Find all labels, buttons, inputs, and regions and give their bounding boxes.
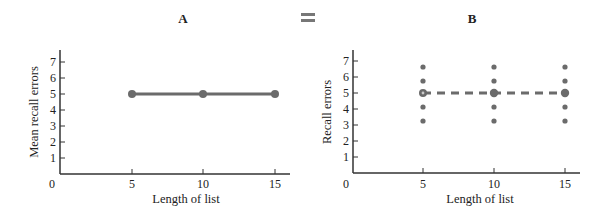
svg-text:7: 7 — [50, 55, 56, 69]
svg-text:2: 2 — [343, 134, 349, 148]
x-axis-label: Length of list — [152, 192, 220, 206]
svg-text:5: 5 — [420, 177, 426, 191]
data-point — [271, 90, 279, 98]
svg-text:15: 15 — [559, 177, 571, 191]
svg-text:1: 1 — [343, 150, 349, 164]
svg-text:0: 0 — [343, 177, 349, 191]
svg-text:10: 10 — [488, 177, 500, 191]
y-tick-labels: 12 34 56 7 — [50, 55, 56, 165]
data-point — [128, 90, 136, 98]
svg-text:3: 3 — [343, 118, 349, 132]
svg-text:10: 10 — [197, 177, 209, 191]
x-tick-labels: 05 1015 — [49, 177, 281, 191]
data-point — [199, 90, 207, 98]
svg-text:5: 5 — [343, 86, 349, 100]
equals-icon — [301, 13, 315, 22]
svg-text:3: 3 — [50, 119, 56, 133]
svg-text:6: 6 — [343, 70, 349, 84]
svg-text:5: 5 — [50, 87, 56, 101]
y-axis-label: Mean recall errors — [27, 66, 41, 158]
figure: A 12 34 56 7 05 1015 Length of list Mean… — [0, 0, 605, 216]
svg-text:4: 4 — [50, 103, 56, 117]
x-axis-label: Length of list — [446, 192, 514, 206]
svg-text:15: 15 — [269, 177, 281, 191]
panel-b-title: B — [468, 11, 477, 26]
svg-text:2: 2 — [50, 135, 56, 149]
svg-text:1: 1 — [50, 151, 56, 165]
svg-text:6: 6 — [50, 71, 56, 85]
svg-text:0: 0 — [49, 177, 55, 191]
svg-text:7: 7 — [343, 54, 349, 68]
panel-a-title: A — [178, 11, 188, 26]
svg-text:5: 5 — [129, 177, 135, 191]
mean-marker-center — [422, 92, 425, 95]
x-tick-labels: 05 1015 — [343, 177, 571, 191]
panel-a: A 12 34 56 7 05 1015 Length of list Mean… — [27, 11, 290, 206]
panel-b: B 12 34 56 7 05 1015 Length of list Reca… — [320, 11, 580, 206]
svg-text:4: 4 — [343, 102, 349, 116]
y-axis-label: Recall errors — [320, 80, 334, 144]
y-tick-labels: 12 34 56 7 — [343, 54, 349, 164]
